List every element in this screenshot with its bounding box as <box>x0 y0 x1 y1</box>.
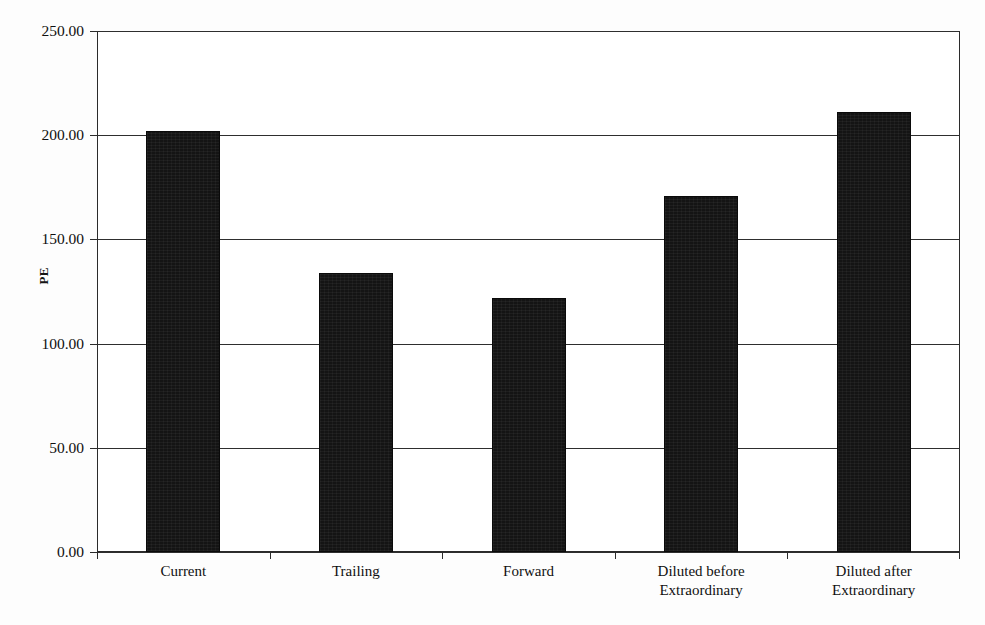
x-tick-mark <box>959 552 960 559</box>
y-tick-label: 0.00 <box>0 543 84 561</box>
y-tick-mark <box>90 239 97 240</box>
x-tick-mark <box>97 552 98 559</box>
y-axis-title: PE <box>36 246 52 306</box>
bar <box>837 112 911 552</box>
x-category-label: Diluted after Extraordinary <box>787 562 960 600</box>
x-tick-mark <box>787 552 788 559</box>
x-tick-mark <box>615 552 616 559</box>
y-tick-mark <box>90 135 97 136</box>
bar <box>492 298 566 552</box>
bar-chart: PE 0.0050.00100.00150.00200.00250.00 Cur… <box>0 0 985 625</box>
y-tick-label: 250.00 <box>0 22 84 40</box>
x-category-label: Diluted before Extraordinary <box>615 562 788 600</box>
y-tick-mark <box>90 31 97 32</box>
y-tick-mark <box>90 344 97 345</box>
y-tick-mark <box>90 448 97 449</box>
x-category-label: Trailing <box>270 562 443 581</box>
gridline <box>97 552 960 553</box>
y-tick-label: 150.00 <box>0 230 84 248</box>
y-tick-mark <box>90 552 97 553</box>
x-tick-mark <box>442 552 443 559</box>
y-tick-label: 200.00 <box>0 126 84 144</box>
x-category-label: Forward <box>442 562 615 581</box>
bars-group <box>97 31 960 552</box>
y-tick-label: 100.00 <box>0 335 84 353</box>
bar <box>319 273 393 552</box>
bar <box>146 131 220 552</box>
bar <box>664 196 738 552</box>
x-category-label: Current <box>97 562 270 581</box>
y-tick-label: 50.00 <box>0 439 84 457</box>
x-tick-mark <box>270 552 271 559</box>
